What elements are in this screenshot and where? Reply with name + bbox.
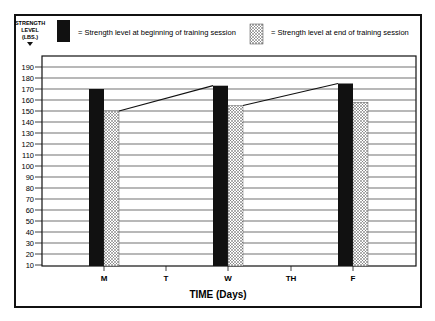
y-tick-label: 80 [26, 184, 34, 193]
x-tick-label: W [224, 274, 232, 283]
bar-end-M [104, 111, 119, 266]
y-tick-label: 60 [26, 206, 34, 215]
x-tick-label: F [351, 274, 356, 283]
y-tick-label: 30 [26, 239, 34, 248]
y-tick-label: 140 [21, 118, 34, 127]
y-tick-label: 70 [26, 195, 34, 204]
y-tick-label: 90 [26, 173, 34, 182]
y-tick-label: 50 [26, 217, 34, 226]
y-tick-label: 110 [22, 151, 34, 160]
svg-text:(LBS.): (LBS.) [22, 34, 38, 40]
y-tick-label: 190 [21, 63, 34, 72]
y-tick-label: 150 [21, 107, 34, 116]
y-axis-ticks: 1020304050607080901001101201301401501601… [21, 63, 42, 270]
svg-text:STRENGTH: STRENGTH [15, 20, 45, 26]
y-tick-label: 20 [26, 250, 34, 259]
legend-label-end: = Strength level at end of training sess… [271, 28, 409, 37]
strength-chart: STRENGTH LEVEL (LBS.) = Strength level a… [0, 0, 435, 321]
arrow-down-icon [27, 42, 33, 46]
y-tick-label: 170 [21, 85, 34, 94]
y-tick-label: 180 [21, 74, 34, 83]
bar-end-W [228, 106, 243, 267]
bar-begin-W [213, 86, 228, 266]
y-axis-label: STRENGTH LEVEL (LBS.) [15, 20, 45, 46]
x-axis-title: TIME (Days) [189, 289, 246, 300]
legend-label-begin: = Strength level at beginning of trainin… [78, 28, 236, 37]
y-tick-label: 130 [21, 129, 34, 138]
x-tick-label: M [101, 274, 108, 283]
legend: = Strength level at beginning of trainin… [57, 20, 409, 44]
y-tick-label: 160 [21, 96, 34, 105]
y-tick-label: 120 [21, 140, 34, 149]
svg-text:LEVEL: LEVEL [21, 27, 39, 33]
x-tick-label: TH [286, 274, 297, 283]
legend-swatch-begin [57, 20, 70, 42]
bar-begin-F [338, 84, 353, 267]
bar-begin-M [89, 89, 104, 266]
x-axis-ticks: MTWTHF [101, 266, 356, 283]
y-tick-label: 40 [26, 228, 34, 237]
legend-swatch-end [250, 24, 263, 44]
y-tick-label: 10 [26, 261, 34, 270]
y-tick-label: 100 [21, 162, 34, 171]
x-tick-label: T [164, 274, 169, 283]
bar-end-F [353, 102, 368, 266]
